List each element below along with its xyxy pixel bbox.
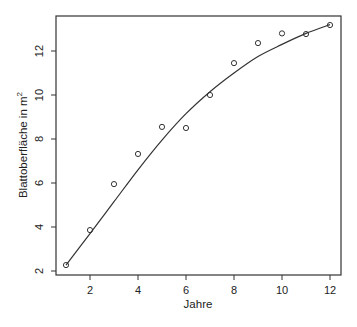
x-tick-label: 6: [183, 284, 189, 296]
y-tick-label: 4: [33, 224, 45, 230]
y-tick-label: 8: [33, 136, 45, 142]
data-point: [159, 124, 164, 129]
y-tick-label: 10: [33, 89, 45, 101]
x-tick-label: 12: [324, 284, 336, 296]
plot-frame: [56, 16, 341, 275]
data-point: [183, 125, 188, 130]
x-tick-label: 10: [276, 284, 288, 296]
scatter-chart: 24681012 24681012 Jahre Blattoberfläche …: [0, 0, 357, 327]
x-axis-label: Jahre: [184, 298, 213, 310]
y-tick-label: 6: [33, 180, 45, 186]
x-tick-label: 4: [135, 284, 141, 296]
data-points: [63, 22, 332, 267]
x-tick-label: 2: [87, 284, 93, 296]
y-axis: 24681012: [33, 45, 56, 274]
data-point: [231, 61, 236, 66]
x-tick-label: 8: [231, 284, 237, 296]
y-tick-label: 2: [33, 268, 45, 274]
data-point: [135, 151, 140, 156]
data-point: [207, 92, 212, 97]
data-point: [111, 182, 116, 187]
data-point: [87, 227, 92, 232]
y-tick-label: 12: [33, 45, 45, 57]
fitted-curve: [66, 25, 330, 265]
data-point: [255, 40, 260, 45]
data-point: [279, 31, 284, 36]
x-axis: 24681012: [87, 275, 336, 296]
y-axis-label: Blattoberfläche in m2: [15, 91, 29, 198]
